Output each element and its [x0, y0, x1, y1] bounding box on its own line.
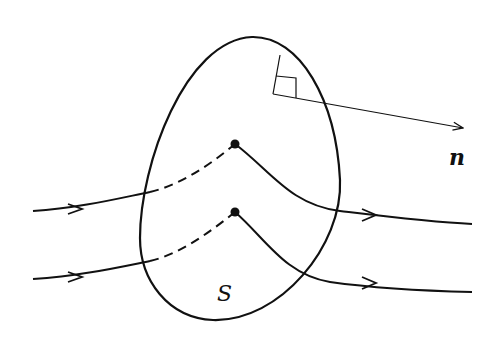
normal-vector [273, 55, 463, 128]
field-point-dot [231, 208, 240, 217]
lower-field-line [33, 208, 472, 293]
flux-diagram: S n [0, 0, 500, 359]
normal-label: n [449, 144, 465, 170]
surface-label: S [217, 281, 232, 306]
tangent-tick [273, 55, 280, 94]
normal-arrow [273, 94, 463, 128]
upper-field-line [33, 140, 472, 225]
field-point-dot [231, 140, 240, 149]
surface-boundary [140, 37, 340, 320]
